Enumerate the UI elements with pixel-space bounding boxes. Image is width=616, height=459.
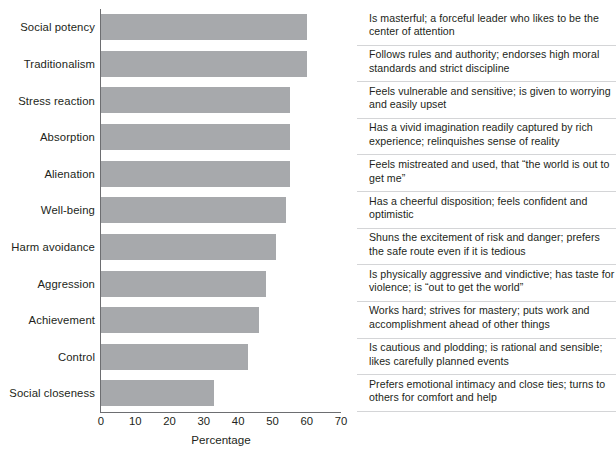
category-label: Social closeness: [9, 387, 95, 400]
bar-row: Social closenessPrefers emotional intima…: [0, 375, 616, 412]
category-label: Achievement: [29, 314, 95, 327]
bar-chart-figure: Social potencyIs masterful; a forceful l…: [0, 0, 616, 459]
x-tick-label: 0: [98, 415, 104, 428]
bar: [101, 271, 266, 297]
category-label: Aggression: [37, 277, 95, 290]
bar-row: TraditionalismFollows rules and authorit…: [0, 46, 616, 83]
category-label: Social potency: [20, 21, 95, 34]
category-label: Well-being: [41, 204, 95, 217]
x-tick-label: 30: [198, 415, 211, 428]
bar-row: AchievementWorks hard; strives for maste…: [0, 302, 616, 339]
bar-row: AbsorptionHas a vivid imagination readil…: [0, 119, 616, 156]
trait-description: Prefers emotional intimacy and close tie…: [369, 378, 615, 405]
x-tick-label: 60: [300, 415, 313, 428]
trait-description: Feels mistreated and used, that “the wor…: [369, 158, 615, 185]
category-label: Absorption: [40, 131, 95, 144]
bar: [101, 234, 276, 260]
trait-description: Has a vivid imagination readily captured…: [369, 121, 615, 148]
category-label: Traditionalism: [24, 57, 95, 70]
x-tick-label: 70: [335, 415, 348, 428]
bar: [101, 344, 248, 370]
bar-row: Harm avoidanceShuns the excitement of ri…: [0, 229, 616, 266]
plot-area: Social potencyIs masterful; a forceful l…: [0, 0, 616, 459]
bar: [101, 161, 290, 187]
bar: [101, 124, 290, 150]
x-tick-label: 20: [163, 415, 176, 428]
bar: [101, 307, 259, 333]
trait-description: Is physically aggressive and vindictive;…: [369, 268, 615, 295]
trait-description: Is masterful; a forceful leader who like…: [369, 12, 615, 39]
bar: [101, 380, 214, 406]
trait-description: Works hard; strives for mastery; puts wo…: [369, 304, 615, 331]
trait-description: Follows rules and authority; endorses hi…: [369, 48, 615, 75]
trait-description: Shuns the excitement of risk and danger;…: [369, 231, 615, 258]
bar-rows: Social potencyIs masterful; a forceful l…: [0, 0, 616, 412]
bar-row: Stress reactionFeels vulnerable and sens…: [0, 82, 616, 119]
bar-row: ControlIs cautious and plodding; is rati…: [0, 339, 616, 376]
bar-row: Social potencyIs masterful; a forceful l…: [0, 9, 616, 46]
bar: [101, 14, 307, 40]
bar-row: Well-beingHas a cheerful disposition; fe…: [0, 192, 616, 229]
x-tick-label: 40: [232, 415, 245, 428]
category-label: Stress reaction: [18, 94, 95, 107]
x-tick-label: 10: [129, 415, 142, 428]
x-axis-ticks: 010203040506070: [0, 412, 616, 436]
x-axis-title: Percentage: [191, 433, 250, 446]
trait-description: Has a cheerful disposition; feels confid…: [369, 195, 615, 222]
trait-description: Is cautious and plodding; is rational an…: [369, 341, 615, 368]
category-label: Control: [58, 350, 95, 363]
bar-row: AggressionIs physically aggressive and v…: [0, 265, 616, 302]
bar-row: AlienationFeels mistreated and used, tha…: [0, 155, 616, 192]
trait-description: Feels vulnerable and sensitive; is given…: [369, 85, 615, 112]
bar: [101, 51, 307, 77]
bar: [101, 87, 290, 113]
category-label: Alienation: [44, 167, 95, 180]
category-label: Harm avoidance: [11, 241, 95, 254]
bar: [101, 197, 286, 223]
x-tick-label: 50: [266, 415, 279, 428]
y-axis-line: [100, 9, 101, 412]
